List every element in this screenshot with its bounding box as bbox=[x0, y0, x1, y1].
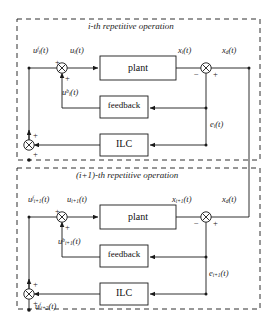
signal-x-d-top: xd(t) bbox=[222, 46, 236, 55]
signal-e-i: ei(t) bbox=[210, 120, 223, 129]
sign-sum-error-i1-b: + bbox=[213, 219, 218, 228]
sign-sum-error-i-a: − bbox=[194, 70, 199, 79]
sign-sum-learn-i1-b: + bbox=[33, 299, 38, 308]
sum-error-i bbox=[201, 63, 211, 73]
signal-x-i: xi(t) bbox=[178, 46, 191, 55]
panel-i-title: i-th repetitive operation bbox=[88, 22, 174, 31]
feedback-i-label: feedback bbox=[100, 100, 148, 110]
sum-error-i1 bbox=[201, 212, 211, 222]
signal-u-i: ui(t) bbox=[70, 46, 84, 55]
signal-e-i1: ei+1(t) bbox=[209, 269, 228, 278]
signal-x-i1: xi+1(t) bbox=[172, 195, 191, 204]
ilc-i-label: ILC bbox=[100, 138, 148, 149]
sign-sum-input-i-b: + bbox=[65, 74, 70, 83]
signal-u-i1: ui+1(t) bbox=[67, 195, 87, 204]
signal-u-fb-i1: ubi+1(t) bbox=[58, 237, 81, 246]
signal-u-ff-i2: ufi+2(t) bbox=[35, 302, 56, 311]
sign-sum-input-i1-a: + bbox=[55, 207, 60, 216]
sign-sum-input-i1-b: + bbox=[65, 223, 70, 232]
ilc-i1-label: ILC bbox=[100, 287, 148, 298]
signal-u-ff-i1: ufi+1(t) bbox=[28, 195, 49, 204]
panel-i1-title: (i+1)-th repetitive operation bbox=[76, 171, 178, 180]
sign-sum-learn-i-b: + bbox=[33, 150, 38, 159]
plant-i1-label: plant bbox=[100, 211, 176, 222]
signal-x-d-bot: xd(t) bbox=[222, 195, 236, 204]
sign-sum-learn-i-a: + bbox=[33, 131, 38, 140]
sign-sum-learn-i1-a: + bbox=[33, 280, 38, 289]
plant-i-label: plant bbox=[100, 62, 176, 73]
feedback-i1-label: feedback bbox=[100, 249, 148, 259]
signal-u-ff-i: ufi(t) bbox=[33, 46, 48, 55]
signal-u-fb-i: ubi(t) bbox=[62, 88, 78, 97]
sign-sum-input-i-a: + bbox=[55, 58, 60, 67]
sign-sum-error-i1-a: − bbox=[194, 219, 199, 228]
sign-sum-error-i-b: + bbox=[213, 70, 218, 79]
